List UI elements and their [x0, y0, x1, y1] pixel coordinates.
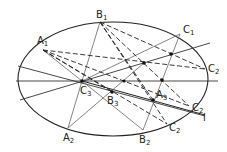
point-a3	[151, 98, 155, 102]
label-line-l: l	[203, 112, 206, 123]
point-c3	[80, 79, 84, 83]
chord-b1-c3	[82, 22, 100, 81]
dash-a1-b3	[43, 50, 112, 92]
point-b3	[110, 90, 114, 94]
label-b2: B2	[139, 134, 150, 147]
diagram-canvas: A1 B1 C1 C2 C3 B3 A3 A2 B2 C2 C2 l	[0, 0, 227, 152]
intersection-dot-4	[122, 79, 125, 82]
intersection-dot-3	[160, 78, 164, 82]
label-b1: B1	[96, 9, 107, 22]
label-c2-right: C2	[208, 63, 219, 76]
chord-c1-b2	[143, 34, 180, 130]
label-a2: A2	[63, 132, 74, 145]
line-c3-lower	[20, 43, 210, 100]
label-c1: C1	[183, 24, 194, 37]
pascal-diagram: A1 B1 C1 C2 C3 B3 A3 A2 B2 C2 C2 l	[0, 0, 227, 152]
intersection-dot-1	[142, 61, 146, 65]
intersection-dot-2	[169, 52, 173, 56]
label-a3: A3	[156, 89, 167, 102]
label-a1: A1	[37, 35, 48, 48]
chord-a1-c3	[43, 50, 82, 81]
label-c2-lower: C2	[169, 122, 180, 135]
